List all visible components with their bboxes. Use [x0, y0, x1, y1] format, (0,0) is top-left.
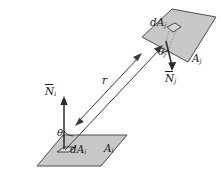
- upper-normal-label: Nj: [165, 72, 176, 85]
- arrow-up-icon: [60, 96, 67, 105]
- lower-element-label: dAi: [70, 143, 86, 156]
- arrow-down-icon: [168, 62, 176, 71]
- distance-arrow-shaft: [78, 57, 139, 122]
- distance-label: r: [102, 74, 107, 86]
- distance-arrowhead-upper-icon: [133, 53, 142, 61]
- upper-element-label: dAj: [150, 16, 166, 29]
- upper-area-label: Aj: [192, 52, 202, 65]
- radiation-view-factor-diagram: dAj Aj θj Nj r Ni θi dAi Ai: [0, 0, 221, 177]
- upper-angle-label: θj: [158, 46, 166, 57]
- distance-arrowhead-lower-icon: [75, 118, 84, 126]
- lower-area-label: Ai: [104, 142, 114, 155]
- lower-angle-label: θi: [57, 127, 65, 138]
- lower-normal-label: Ni: [45, 85, 56, 98]
